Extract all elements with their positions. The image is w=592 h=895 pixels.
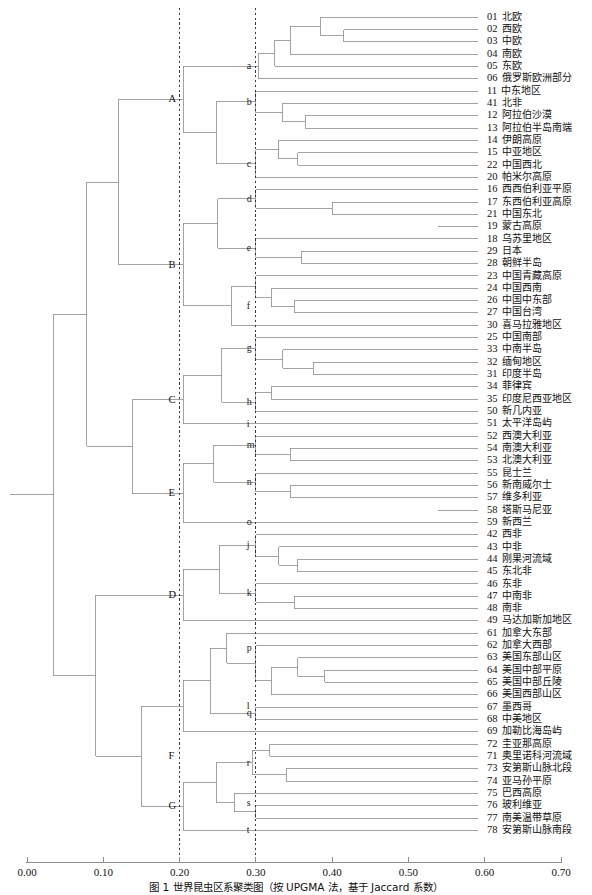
- leaf-label-28: 28朝鲜半岛: [487, 257, 542, 268]
- leaf-label-77: 77南美温带草原: [487, 812, 562, 823]
- leaf-label-18: 18乌苏里地区: [487, 233, 552, 244]
- leaf-label-49: 49马达加斯加地区: [487, 614, 572, 625]
- leaf-code: 75: [487, 787, 498, 798]
- leaf-label-04: 04南欧: [487, 48, 522, 59]
- leaf-label-14: 14伊朗高原: [487, 134, 542, 145]
- leaf-code: 47: [487, 590, 498, 601]
- leaf-code: 05: [487, 60, 498, 71]
- leaf-name: 新几内亚: [502, 405, 542, 416]
- leaf-name: 中国西南: [502, 282, 542, 293]
- leaf-name: 西欧: [502, 23, 522, 34]
- leaf-label-47: 47中南非: [487, 590, 532, 601]
- leaf-name: 安第斯山脉南段: [502, 824, 572, 835]
- leaf-label-75: 75巴西高原: [487, 787, 542, 798]
- leaf-name: 中亚地区: [502, 146, 542, 157]
- leaf-label-59: 59新西兰: [487, 516, 532, 527]
- leaf-name: 西非: [502, 528, 522, 539]
- cluster-label-F: F: [169, 750, 175, 761]
- leaf-code: 13: [487, 122, 498, 133]
- leaf-code: 62: [487, 639, 498, 650]
- leaf-code: 63: [487, 651, 498, 662]
- reference-lines: [180, 8, 256, 858]
- leaf-name: 加拿大东部: [502, 627, 552, 638]
- leaf-name: 中国青藏高原: [502, 270, 562, 281]
- leaf-name: 中南半岛: [502, 343, 542, 354]
- sub-cluster-label-t: t: [247, 824, 250, 835]
- leaf-code: 58: [487, 504, 498, 515]
- leaf-label-55: 55昆士兰: [487, 467, 532, 478]
- leaf-name: 玻利维亚: [502, 799, 542, 810]
- leaf-name: 中南非: [502, 590, 532, 601]
- dendrogram-figure: 01北欧02西欧03中欧04南欧05东欧06俄罗斯欧洲部分11中东地区41北非1…: [0, 0, 592, 895]
- axis-tick-2: 0.20: [170, 866, 189, 878]
- leaf-name: 中非: [502, 541, 522, 552]
- axis-tick-5: 0.50: [399, 866, 418, 878]
- leaf-name: 西澳大利亚: [502, 430, 552, 441]
- leaf-label-30: 30喜马拉雅地区: [487, 319, 562, 330]
- leaf-name: 喜马拉雅地区: [502, 319, 562, 330]
- leaf-name: 安第斯山脉北段: [502, 762, 572, 773]
- leaf-label-20: 20帕米尔高原: [487, 171, 552, 182]
- leaf-label-54: 54南澳大利亚: [487, 442, 552, 453]
- leaf-name: 中东地区: [501, 85, 541, 96]
- leaf-name: 巴西高原: [502, 787, 542, 798]
- leaf-name: 加勒比海岛屿: [502, 725, 562, 736]
- leaf-code: 78: [487, 824, 498, 835]
- leaf-code: 30: [487, 319, 498, 330]
- leaf-code: 28: [487, 257, 498, 268]
- leaf-label-48: 48南非: [487, 602, 522, 613]
- leaf-label-27: 27中国台湾: [487, 306, 542, 317]
- cluster-label-B: B: [169, 259, 176, 270]
- leaf-name: 东西伯利亚高原: [502, 196, 572, 207]
- leaf-code: 01: [487, 11, 498, 22]
- axis-tick-3: 0.30: [246, 866, 265, 878]
- leaf-label-52: 52西澳大利亚: [487, 430, 552, 441]
- leaf-name: 太平洋岛屿: [502, 417, 552, 428]
- leaf-code: 74: [487, 775, 498, 786]
- leaf-code: 41: [487, 97, 498, 108]
- leaf-code: 04: [487, 48, 498, 59]
- leaf-name: 南澳大利亚: [502, 442, 552, 453]
- leaf-label-43: 43中非: [487, 541, 522, 552]
- cluster-label-D: D: [169, 589, 177, 600]
- leaf-label-19: 19蒙古高原: [487, 220, 542, 231]
- sub-cluster-label-j: j: [247, 539, 250, 550]
- leaf-code: 14: [487, 134, 498, 145]
- leaf-code: 49: [487, 614, 498, 625]
- leaf-name: 俄罗斯欧洲部分: [502, 72, 572, 83]
- leaf-name: 北欧: [502, 11, 522, 22]
- leaf-name: 伊朗高原: [502, 134, 542, 145]
- leaf-name: 南欧: [502, 48, 522, 59]
- leaf-label-29: 29日本: [487, 245, 522, 256]
- sub-cluster-label-p: p: [247, 642, 252, 653]
- leaf-code: 20: [487, 171, 498, 182]
- leaf-label-50: 50新几内亚: [487, 405, 542, 416]
- leaf-label-64: 64美国中部平原: [487, 664, 562, 675]
- leaf-label-35: 35印度尼西亚地区: [487, 393, 572, 404]
- leaf-name: 中国中东部: [502, 294, 552, 305]
- leaf-code: 71: [487, 750, 498, 761]
- leaf-label-13: 13阿拉伯半岛南端: [487, 122, 572, 133]
- dendrogram-links: [10, 17, 478, 830]
- sub-cluster-label-f: f: [247, 300, 250, 311]
- leaf-code: 50: [487, 405, 498, 416]
- leaf-code: 32: [487, 356, 498, 367]
- leaf-name: 圭亚那高原: [502, 738, 552, 749]
- leaf-name: 阿拉伯半岛南端: [502, 122, 572, 133]
- leaf-code: 35: [487, 393, 498, 404]
- sub-cluster-label-e: e: [247, 242, 251, 253]
- leaf-name: 乌苏里地区: [502, 233, 552, 244]
- leaf-label-72: 72圭亚那高原: [487, 738, 552, 749]
- leaf-code: 02: [487, 23, 498, 34]
- leaf-name: 中国南部: [502, 331, 542, 342]
- leaf-name: 日本: [502, 245, 522, 256]
- leaf-code: 61: [487, 627, 498, 638]
- leaf-name: 中国西北: [502, 159, 542, 170]
- leaf-name: 美国西部山区: [502, 688, 562, 699]
- leaf-label-41: 41北非: [487, 97, 522, 108]
- leaf-name: 帕米尔高原: [502, 171, 552, 182]
- leaf-code: 53: [487, 454, 498, 465]
- leaf-name: 美国中部丘陵: [502, 676, 562, 687]
- sub-cluster-label-n: n: [247, 476, 252, 487]
- leaf-label-67: 67墨西哥: [487, 701, 532, 712]
